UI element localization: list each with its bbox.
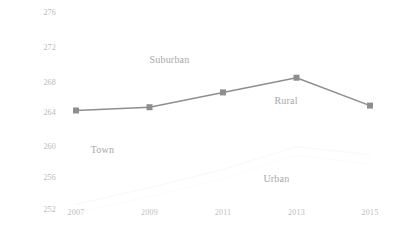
x-axis-tick: 2007 [68, 208, 85, 217]
x-axis: 2007 2009 2011 2013 2015 [0, 0, 401, 236]
x-axis-tick: 2009 [141, 208, 158, 217]
x-axis-tick: 2015 [362, 208, 379, 217]
x-axis-tick: 2011 [215, 208, 232, 217]
x-axis-tick: 2013 [288, 208, 305, 217]
chart-container: 276 272 268 264 260 256 252 Suburban Rur… [0, 0, 401, 236]
